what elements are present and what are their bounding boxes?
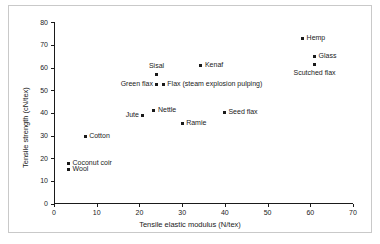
x-tick-label-20: 20 [129,209,149,216]
x-tick-label-50: 50 [258,209,278,216]
y-axis-title: Tensile strength (cN/tex) [22,87,30,168]
data-point-label: Seed flax [228,108,257,116]
data-point-marker [313,63,316,66]
x-tick-label-40: 40 [215,209,235,216]
data-point-label: Kenaf [205,61,223,69]
data-point-label: Flax (steam explosion pulping) [167,80,262,88]
x-tick-20 [139,204,140,207]
y-tick-60 [51,68,54,69]
data-point-label: Sisal [149,62,164,70]
data-point-marker [67,162,70,165]
x-tick-0 [54,204,55,207]
x-tick-label-10: 10 [87,209,107,216]
x-tick-label-70: 70 [343,209,363,216]
data-point-marker [67,168,70,171]
y-tick-label-50: 50 [28,87,48,94]
data-point-label: Cotton [89,132,110,140]
data-point-marker [313,55,316,58]
x-tick-50 [268,204,269,207]
y-tick-label-80: 80 [28,19,48,26]
data-point-marker [199,64,202,67]
data-point-label: Ramie [186,119,206,127]
y-tick-label-40: 40 [28,109,48,116]
data-point-label: Nettle [158,106,176,114]
data-point-marker [155,73,158,76]
data-point-label: Scutched flax [294,69,336,77]
x-tick-40 [225,204,226,207]
y-tick-40 [51,113,54,114]
y-axis-line [54,22,55,204]
data-point-label: Jute [126,111,139,119]
x-tick-label-30: 30 [172,209,192,216]
x-tick-30 [182,204,183,207]
y-tick-10 [51,181,54,182]
y-tick-30 [51,136,54,137]
y-tick-80 [51,22,54,23]
x-axis-line [54,203,353,204]
y-tick-label-20: 20 [28,155,48,162]
data-point-label: Wool [73,165,89,173]
y-tick-label-70: 70 [28,41,48,48]
x-tick-70 [353,204,354,207]
y-tick-label-10: 10 [28,177,48,184]
scatter-plot: 01020304050607080 010203040506070 HempGl… [0,0,380,244]
x-tick-10 [97,204,98,207]
data-point-marker [301,37,304,40]
data-point-marker [181,122,184,125]
y-tick-label-60: 60 [28,64,48,71]
y-tick-label-30: 30 [28,132,48,139]
data-point-label: Glass [319,52,337,60]
data-point-marker [152,109,155,112]
data-point-marker [84,135,87,138]
y-tick-label-0: 0 [28,200,48,207]
data-point-marker [155,83,158,86]
data-point-marker [223,111,226,114]
x-tick-60 [310,204,311,207]
y-tick-50 [51,90,54,91]
data-point-marker [162,83,165,86]
x-axis-title: Tensile elastic modulus (N/tex) [0,221,380,229]
data-point-label: Hemp [307,34,326,42]
y-tick-70 [51,45,54,46]
x-tick-label-60: 60 [300,209,320,216]
data-point-marker [141,114,144,117]
data-point-label: Green flax [121,80,153,88]
figure: 01020304050607080 010203040506070 HempGl… [0,0,380,244]
y-tick-20 [51,158,54,159]
x-tick-label-0: 0 [44,209,64,216]
